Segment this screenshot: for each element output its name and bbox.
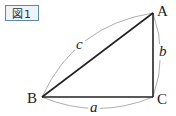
vertex-c-label: C [157,91,167,107]
side-a-label: a [90,99,98,115]
side-c-label: c [76,36,83,52]
side-c [42,13,153,97]
vertex-a-label: A [157,3,168,19]
vertex-b-label: B [27,90,37,106]
triangle-diagram: A B C c b a [0,0,176,116]
side-b-label: b [159,43,167,59]
